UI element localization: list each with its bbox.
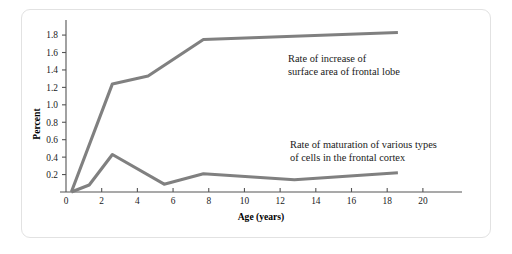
x-axis-title: Age (years) [238, 211, 285, 223]
x-tick-label: 12 [275, 196, 285, 206]
line-chart-canvas: 0.20.40.60.81.01.21.41.61.8 024681012141… [0, 0, 512, 254]
lower-curve-annotation: Rate of maturation of various types of c… [290, 139, 437, 163]
lower-annotation-line-1: Rate of maturation of various types [290, 139, 437, 150]
x-tick-label: 6 [171, 196, 176, 206]
y-tick-label: 0.2 [46, 170, 58, 180]
x-tick-label: 10 [240, 196, 250, 206]
upper-annotation-line-1: Rate of increase of [288, 53, 367, 64]
x-tick-label: 14 [311, 196, 321, 206]
x-axis-ticks [102, 188, 423, 192]
upper-annotation-line-2: surface area of frontal lobe [288, 66, 400, 77]
x-tick-label: 16 [347, 196, 357, 206]
y-tick-label: 0.4 [46, 153, 58, 163]
x-tick-label: 8 [206, 196, 211, 206]
y-axis-title: Percent [31, 108, 42, 140]
x-tick-label: 2 [99, 196, 104, 206]
y-tick-label: 1.8 [46, 30, 58, 40]
x-axis-tick-labels: 02468101214161820 [64, 196, 428, 206]
upper-curve-annotation: Rate of increase of surface area of fron… [288, 53, 400, 77]
y-tick-label: 1.6 [46, 48, 58, 58]
y-tick-label: 1.2 [46, 83, 58, 93]
y-axis-tick-labels: 0.20.40.60.81.01.21.41.61.8 [46, 30, 58, 179]
y-tick-label: 0.6 [46, 135, 58, 145]
x-tick-label: 0 [64, 196, 69, 206]
x-tick-label: 18 [383, 196, 393, 206]
y-tick-label: 1.0 [46, 100, 58, 110]
y-tick-label: 0.8 [46, 118, 58, 128]
chart-figure: 0.20.40.60.81.01.21.41.61.8 024681012141… [0, 0, 512, 254]
x-tick-label: 4 [135, 196, 140, 206]
lower-annotation-line-2: of cells in the frontal cortex [290, 152, 406, 163]
y-tick-label: 1.4 [46, 65, 58, 75]
y-axis-ticks [62, 35, 66, 174]
x-tick-label: 20 [418, 196, 428, 206]
